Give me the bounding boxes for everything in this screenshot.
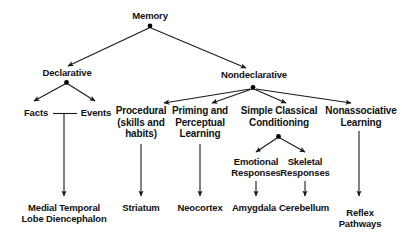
node-medial-temporal-lobe-diencephalon[interactable]: Medial Temporal Lobe Diencephalon	[21, 202, 106, 224]
node-simple-classical-conditioning[interactable]: Simple Classical Conditioning	[241, 105, 318, 128]
edge-declarative-events	[68, 84, 95, 101]
node-nonassociative-line-1: Nonassociative	[325, 105, 396, 117]
node-dot-nondeclarative	[251, 85, 256, 90]
node-cerebellum-line-1: Cerebellum	[279, 202, 329, 213]
node-memory[interactable]: Memory	[132, 11, 168, 22]
node-cerebellum[interactable]: Cerebellum	[279, 202, 329, 213]
node-priming-line-2: Perceptual	[172, 117, 228, 129]
node-reflex-line-1: Reflex	[339, 207, 382, 218]
node-facts[interactable]: Facts	[24, 108, 48, 119]
node-skeletal-responses[interactable]: Skeletal Responses	[280, 156, 329, 178]
node-neocortex[interactable]: Neocortex	[177, 202, 222, 213]
node-emotional-responses[interactable]: Emotional Responses	[231, 156, 280, 178]
node-striatum-line-1: Striatum	[122, 202, 159, 213]
node-procedural[interactable]: Procedural (skills and habits)	[116, 105, 167, 140]
node-procedural-line-2: (skills and	[116, 117, 167, 129]
edge-conditioning-skeletal	[280, 138, 305, 152]
node-priming-line-1: Priming and	[172, 105, 228, 117]
node-skeletal-line-1: Skeletal	[280, 156, 329, 167]
node-nondeclarative-line-1: Nondeclarative	[221, 70, 287, 81]
node-nonassociative-line-2: Learning	[325, 117, 396, 129]
edge-conditioning-emotional	[256, 138, 277, 152]
node-skeletal-line-2: Responses	[280, 167, 329, 178]
node-declarative-line-1: Declarative	[42, 68, 91, 79]
node-neocortex-line-1: Neocortex	[177, 202, 222, 213]
node-events[interactable]: Events	[81, 108, 111, 119]
node-dot-conditioning	[276, 134, 281, 139]
edge-memory-nondeclarative	[151, 28, 246, 68]
node-priming[interactable]: Priming and Perceptual Learning	[172, 105, 228, 140]
node-events-line-1: Events	[81, 108, 111, 119]
node-priming-line-3: Learning	[172, 128, 228, 140]
node-striatum[interactable]: Striatum	[122, 202, 159, 213]
edge-memory-declarative	[68, 28, 149, 66]
edge-nondeclarative-priming	[212, 89, 252, 103]
node-declarative[interactable]: Declarative	[42, 68, 91, 79]
node-medial-line-1: Medial Temporal	[21, 202, 106, 213]
memory-taxonomy-diagram: Memory Declarative Nondeclarative Facts …	[0, 0, 406, 246]
node-conditioning-line-2: Conditioning	[241, 117, 318, 129]
node-dot-memory	[148, 24, 153, 29]
node-conditioning-line-1: Simple Classical	[241, 105, 318, 117]
node-emotional-line-1: Emotional	[231, 156, 280, 167]
node-memory-line-1: Memory	[132, 11, 168, 22]
node-procedural-line-3: habits)	[116, 128, 167, 140]
node-procedural-line-1: Procedural	[116, 105, 167, 117]
node-nonassociative-learning[interactable]: Nonassociative Learning	[325, 105, 396, 128]
node-facts-line-1: Facts	[24, 108, 48, 119]
node-reflex-line-2: Pathways	[339, 218, 382, 229]
node-emotional-line-2: Responses	[231, 167, 280, 178]
edge-nondeclarative-procedural	[164, 89, 250, 103]
edge-declarative-facts	[34, 84, 65, 101]
node-nondeclarative[interactable]: Nondeclarative	[221, 70, 287, 81]
node-medial-line-2: Lobe Diencephalon	[21, 213, 106, 224]
node-amygdala-line-1: Amygdala	[232, 202, 276, 213]
node-amygdala[interactable]: Amygdala	[232, 202, 276, 213]
node-dot-declarative	[64, 80, 69, 85]
node-reflex-pathways[interactable]: Reflex Pathways	[339, 207, 382, 229]
